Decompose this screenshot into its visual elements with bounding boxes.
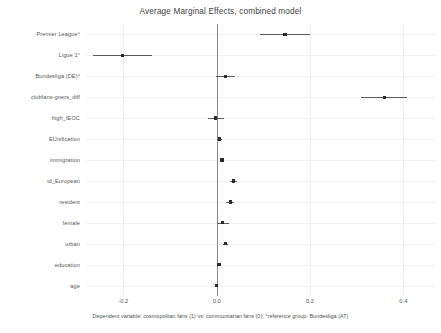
x-axis-labels: -0.20.00.20.4 — [86, 298, 436, 310]
gridline-horizontal — [86, 181, 436, 182]
y-axis-tick-label: female — [63, 220, 80, 226]
y-axis-labels: Premier League°Ligue 1°Bundesliga (DE)°c… — [0, 24, 80, 296]
y-axis-tick-label: immigration — [50, 157, 80, 163]
y-axis-tick-label: EUnification — [49, 136, 80, 142]
zero-reference-line — [217, 24, 218, 296]
estimate-point — [218, 137, 221, 140]
x-axis-tick-label: 0.2 — [306, 298, 314, 304]
y-axis-tick-label: Ligue 1° — [59, 52, 80, 58]
estimate-point — [283, 33, 286, 36]
y-axis-tick-label: urban — [65, 241, 80, 247]
estimate-point — [217, 263, 220, 266]
gridline-horizontal — [86, 244, 436, 245]
y-axis-tick-label: Premier League° — [36, 31, 80, 37]
gridline-horizontal — [86, 118, 436, 119]
y-axis-tick-label: education — [55, 262, 80, 268]
chart-caption: Dependent variable: cosmopolitan fans (1… — [0, 313, 441, 319]
plot-area — [86, 24, 436, 296]
estimate-point — [224, 242, 227, 245]
x-axis-tick-label: 0.0 — [213, 298, 221, 304]
gridline-horizontal — [86, 286, 436, 287]
estimate-point — [224, 75, 227, 78]
estimate-point — [229, 200, 232, 203]
x-axis-tick-label: 0.4 — [399, 298, 407, 304]
estimate-point — [215, 284, 218, 287]
gridline-horizontal — [86, 160, 436, 161]
y-axis-tick-label: Bundesliga (DE)° — [35, 73, 80, 79]
y-axis-tick-label: high_IEOC — [52, 115, 80, 121]
estimate-point — [214, 116, 217, 119]
average-marginal-effects-chart: Average Marginal Effects, combined model… — [0, 0, 441, 333]
gridline-horizontal — [86, 202, 436, 203]
y-axis-tick-label: id_European — [47, 178, 80, 184]
gridline-horizontal — [86, 139, 436, 140]
gridline-horizontal — [86, 223, 436, 224]
gridline-horizontal — [86, 76, 436, 77]
x-axis-tick-label: -0.2 — [118, 298, 128, 304]
estimate-point — [221, 221, 224, 224]
estimate-point — [121, 54, 124, 57]
y-axis-tick-label: resident — [59, 199, 80, 205]
chart-title: Average Marginal Effects, combined model — [0, 7, 441, 16]
estimate-point — [220, 158, 223, 161]
gridline-horizontal — [86, 265, 436, 266]
estimate-point — [383, 96, 386, 99]
y-axis-tick-label: clubfans-gners_diff — [31, 94, 80, 100]
y-axis-tick-label: age — [70, 283, 80, 289]
estimate-point — [232, 179, 235, 182]
